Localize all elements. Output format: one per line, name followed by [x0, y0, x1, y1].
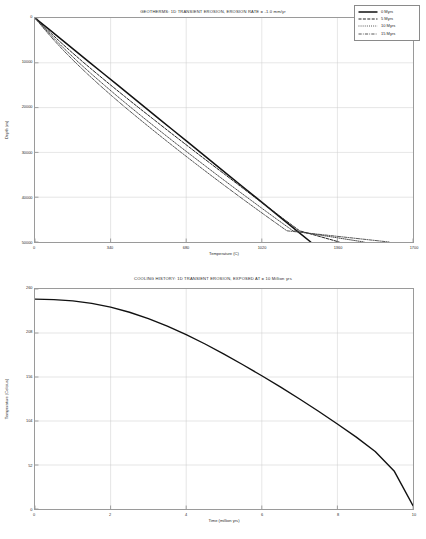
y-tick-label: 30000 [22, 151, 33, 155]
y-tick-label: 104 [26, 419, 33, 423]
legend-label: 0 Myrs [381, 10, 393, 14]
geotherms-plot-area [34, 17, 414, 243]
legend-label: 15 Myrs [381, 32, 395, 36]
y-tick-label: 50000 [22, 241, 33, 245]
x-tick-label: 1020 [258, 246, 267, 250]
x-tick-label: 680 [183, 246, 190, 250]
legend-line-swatch [358, 16, 378, 22]
y-tick-label: 10000 [22, 60, 33, 64]
x-tick-label: 4 [185, 513, 187, 517]
x-tick-label: 8 [337, 513, 339, 517]
y-tick-label: 156 [26, 375, 33, 379]
legend-label: 10 Myrs [381, 24, 395, 28]
x-tick-label: 6 [261, 513, 263, 517]
x-tick-label: 1360 [334, 246, 343, 250]
geotherms-plot-svg [35, 18, 413, 242]
series-line [35, 18, 364, 242]
y-tick-label: 0 [30, 15, 32, 19]
legend-row[interactable]: 10 Myrs [358, 23, 416, 30]
legend-label: 5 Myrs [381, 17, 393, 21]
x-tick-label: 1700 [410, 246, 419, 250]
cooling-x-axis-title: Time (million yrs) [208, 519, 239, 523]
legend-row[interactable]: 0 Myrs [358, 9, 416, 16]
x-tick-label: 2 [109, 513, 111, 517]
cooling-plot-area [34, 288, 414, 510]
cooling-plot-svg [35, 289, 413, 509]
cooling-history-figure: COOLING HISTORY: 1D TRANSIENT EROSION, E… [0, 268, 426, 539]
y-tick-label: 40000 [22, 196, 33, 200]
series-line [35, 299, 413, 505]
x-tick-label: 0 [33, 246, 35, 250]
x-tick-label: 0 [33, 513, 35, 517]
cooling-y-axis-title: Temperature (Celcius) [5, 379, 9, 419]
figure-page: GEOTHERMS: 1D TRANSIENT EROSION, EROSION… [0, 0, 426, 539]
geotherms-figure: GEOTHERMS: 1D TRANSIENT EROSION, EROSION… [0, 0, 426, 268]
geotherms-legend: 0 Myrs5 Myrs10 Myrs15 Myrs [354, 5, 420, 41]
x-tick-label: 10 [412, 513, 416, 517]
y-tick-label: 20000 [22, 105, 33, 109]
y-tick-label: 260 [26, 286, 33, 290]
legend-row[interactable]: 5 Myrs [358, 16, 416, 23]
cooling-chart-title: COOLING HISTORY: 1D TRANSIENT EROSION, E… [0, 276, 426, 281]
geotherms-y-axis-title: Depth (m) [5, 121, 9, 139]
legend-line-swatch [358, 9, 378, 15]
geotherms-x-axis-title: Temperature (C) [209, 252, 239, 256]
legend-line-swatch [358, 31, 378, 37]
y-tick-label: 208 [26, 330, 33, 334]
legend-row[interactable]: 15 Myrs [358, 30, 416, 37]
y-tick-label: 52 [28, 464, 32, 468]
legend-line-swatch [358, 23, 378, 29]
x-tick-label: 340 [107, 246, 114, 250]
series-line [35, 18, 339, 242]
series-line [35, 18, 389, 242]
